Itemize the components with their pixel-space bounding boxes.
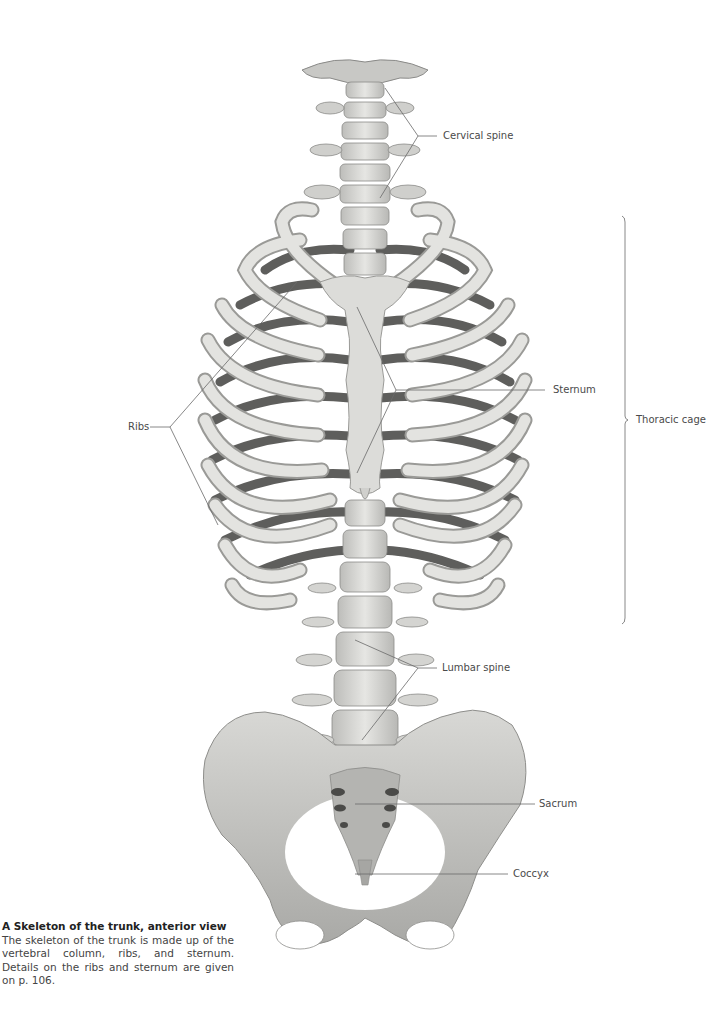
sternum: [320, 276, 410, 499]
caption-body: The skeleton of the trunk is made up of …: [2, 934, 234, 988]
label-lumbar-spine: Lumbar spine: [442, 662, 510, 674]
figure-caption: A Skeleton of the trunk, anterior view T…: [2, 920, 234, 988]
label-sacrum: Sacrum: [539, 798, 577, 810]
pelvis: [203, 710, 526, 949]
label-coccyx: Coccyx: [513, 868, 549, 880]
label-ribs: Ribs: [128, 421, 149, 433]
leader-sternum: [357, 307, 545, 473]
caption-title: A Skeleton of the trunk, anterior view: [2, 920, 234, 934]
trunk-skeleton-illustration: [0, 0, 728, 1011]
atlas-occipital: [302, 60, 428, 84]
label-sternum: Sternum: [553, 384, 596, 396]
label-thoracic-cage: Thoracic cage: [636, 414, 706, 426]
label-cervical-spine: Cervical spine: [443, 130, 513, 142]
thoracic-cage-brace: [622, 216, 628, 624]
